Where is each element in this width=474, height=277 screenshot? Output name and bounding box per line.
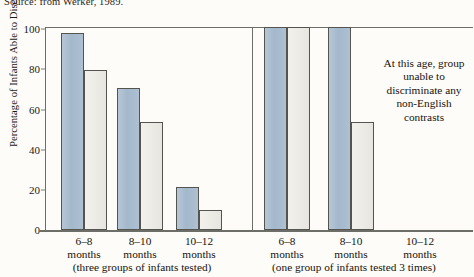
bar-left-10-12-light — [199, 210, 222, 230]
left-panel-caption: (three groups of infants tested) — [73, 261, 212, 273]
x-label-right-8-10-range: 8–10 — [334, 235, 367, 248]
right-panel-caption: (one group of infants tested 3 times) — [272, 261, 436, 273]
x-label-right-8-10-unit: months — [334, 248, 367, 261]
x-label-right-8-10: 8–10 months — [334, 235, 367, 260]
x-label-left-6-8-range: 6–8 — [67, 235, 100, 248]
right-panel-annotation: At this age, group unable to discriminat… — [376, 57, 472, 124]
x-label-left-10-12-range: 10–12 — [182, 235, 215, 248]
x-label-right-6-8-range: 6–8 — [270, 235, 303, 248]
y-tick-60: 60 — [14, 104, 40, 116]
x-label-right-10-12: 10–12 months — [403, 235, 436, 260]
y-tick-80: 80 — [14, 63, 40, 75]
y-tick-20: 20 — [14, 184, 40, 196]
x-label-left-10-12-unit: months — [182, 248, 215, 261]
bar-left-6-8-blue — [61, 33, 84, 230]
x-label-left-8-10-range: 8–10 — [123, 235, 156, 248]
bar-right-6-8-light — [287, 27, 310, 230]
x-label-left-10-12: 10–12 months — [182, 235, 215, 260]
x-label-right-10-12-range: 10–12 — [403, 235, 436, 248]
x-label-right-6-8: 6–8 months — [270, 235, 303, 260]
bar-right-6-8-blue — [264, 27, 287, 230]
x-axis-labels: 6–8 months 8–10 months 10–12 months (thr… — [0, 235, 474, 277]
y-tick-100: 100 — [14, 23, 40, 35]
y-tick-40: 40 — [14, 144, 40, 156]
bar-right-8-10-blue — [328, 27, 351, 230]
bar-left-10-12-blue — [176, 187, 199, 230]
chart-figure: Source: from Werker, 1989. Percentage of… — [0, 0, 474, 277]
bar-left-6-8-light — [84, 70, 107, 230]
x-label-left-8-10-unit: months — [123, 248, 156, 261]
x-label-right-6-8-unit: months — [270, 248, 303, 261]
bar-left-8-10-blue — [117, 88, 140, 230]
x-label-left-6-8: 6–8 months — [67, 235, 100, 260]
x-axis-baseline — [39, 230, 473, 232]
x-label-right-10-12-unit: months — [403, 248, 436, 261]
x-label-left-6-8-unit: months — [67, 248, 100, 261]
bar-left-8-10-light — [140, 122, 163, 230]
bar-right-8-10-light — [351, 122, 374, 230]
x-label-left-8-10: 8–10 months — [123, 235, 156, 260]
